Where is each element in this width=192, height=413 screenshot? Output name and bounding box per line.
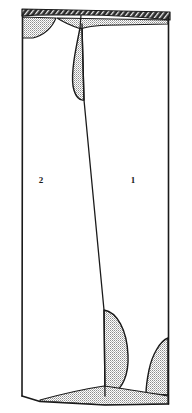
left-edge bbox=[22, 15, 23, 396]
figure-root: 2 1 bbox=[0, 0, 192, 413]
unit-label-1: 1 bbox=[131, 175, 136, 185]
section-drawing: 2 1 bbox=[0, 0, 192, 413]
unit-label-2: 2 bbox=[39, 175, 44, 185]
